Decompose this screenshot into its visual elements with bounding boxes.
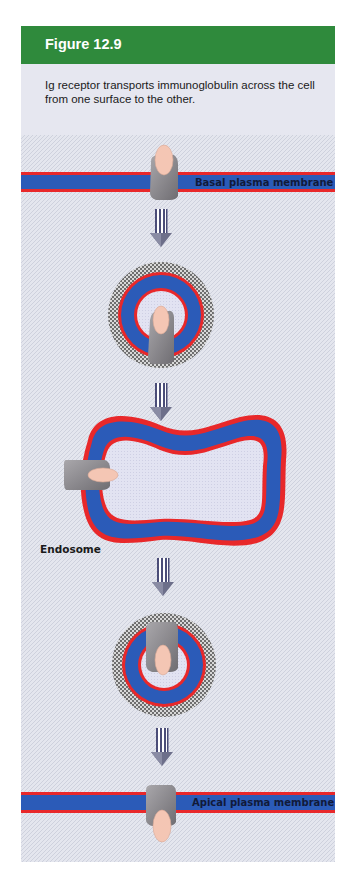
immunoglobulin-icon [88,468,118,482]
transport-vesicle-2 [112,613,216,717]
basal-membrane-label: Basal plasma membrane [195,177,333,188]
immunoglobulin-icon [153,810,171,842]
endosome-label: Endosome [40,543,101,555]
apical-membrane-label: Apical plasma membrane [192,797,334,808]
transcytosis-diagram: Basal plasma membrane Endosome [0,0,356,877]
transport-vesicle-1 [108,262,214,368]
immunoglobulin-icon [153,306,169,334]
apical-membrane: Apical plasma membrane [21,792,335,813]
immunoglobulin-icon [155,645,171,675]
immunoglobulin-icon [155,145,173,175]
